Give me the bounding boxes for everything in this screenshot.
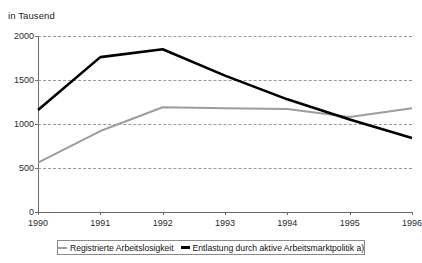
x-tick-mark-1996 xyxy=(412,212,413,215)
y-tick-label-1500: 1500 xyxy=(0,75,34,85)
x-tick-mark-1991 xyxy=(100,212,101,215)
series-lines xyxy=(38,36,412,212)
legend-item-entlastung-aktive-arbeitsmarktpolitik[interactable]: Entlastung durch aktive Arbeitsmarktpoli… xyxy=(181,243,364,253)
legend-label-entlastung-aktive-arbeitsmarktpolitik: Entlastung durch aktive Arbeitsmarktpoli… xyxy=(193,243,364,253)
x-tick-label-1995: 1995 xyxy=(340,218,360,228)
line-chart: in Tausend 0500100015002000 199019911992… xyxy=(0,0,422,263)
legend-label-registrierte-arbeitslosigkeit: Registrierte Arbeitslosigkeit xyxy=(70,243,174,253)
y-axis-unit-label: in Tausend xyxy=(8,10,55,21)
y-tick-label-1000: 1000 xyxy=(0,119,34,129)
x-tick-mark-1990 xyxy=(38,212,39,215)
x-tick-label-1994: 1994 xyxy=(277,218,297,228)
legend-item-registrierte-arbeitslosigkeit[interactable]: Registrierte Arbeitslosigkeit xyxy=(58,243,174,253)
x-tick-label-1992: 1992 xyxy=(153,218,173,228)
y-tick-label-0: 0 xyxy=(0,207,34,217)
x-tick-label-1990: 1990 xyxy=(28,218,48,228)
x-tick-label-1993: 1993 xyxy=(215,218,235,228)
series-line-entlastung-aktive-arbeitsmarktpolitik xyxy=(38,49,412,138)
legend-swatch-gray-icon xyxy=(58,247,67,249)
x-tick-label-1991: 1991 xyxy=(90,218,110,228)
x-tick-mark-1993 xyxy=(225,212,226,215)
y-tick-label-2000: 2000 xyxy=(0,31,34,41)
series-line-registrierte-arbeitslosigkeit xyxy=(38,107,412,162)
plot-area: 0500100015002000 19901991199219931994199… xyxy=(38,36,412,212)
y-tick-label-500: 500 xyxy=(0,163,34,173)
x-tick-label-1996: 1996 xyxy=(402,218,422,228)
x-tick-mark-1992 xyxy=(163,212,164,215)
legend-swatch-black-icon xyxy=(181,246,190,249)
legend: Registrierte Arbeitslosigkeit Entlastung… xyxy=(57,240,365,255)
x-tick-mark-1994 xyxy=(287,212,288,215)
x-tick-mark-1995 xyxy=(350,212,351,215)
